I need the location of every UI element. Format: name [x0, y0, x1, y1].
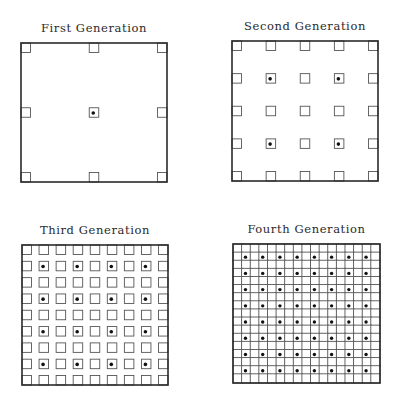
- grid-cell: [300, 74, 310, 84]
- grid-cell: [250, 374, 259, 383]
- grid-cell: [22, 245, 32, 255]
- dot-marker: [278, 288, 281, 291]
- cell-grid: [233, 244, 380, 383]
- grid-cell: [334, 172, 344, 182]
- dot-marker: [110, 330, 114, 334]
- grid-cell: [336, 374, 345, 383]
- grid-cell: [90, 245, 100, 255]
- dot-marker: [295, 255, 298, 258]
- grid-cell: [107, 376, 117, 386]
- grid-cell: [124, 376, 134, 386]
- grid-cell: [159, 376, 169, 386]
- dot-marker: [261, 320, 264, 323]
- grid-cell: [90, 261, 100, 271]
- dot-marker: [313, 337, 316, 340]
- grid-cell: [300, 139, 310, 149]
- grid-cell: [311, 374, 320, 383]
- grid-cell: [371, 374, 380, 383]
- grid-cell: [266, 106, 276, 116]
- grid-cell: [90, 343, 100, 353]
- dot-marker: [91, 111, 95, 115]
- dot-marker: [313, 369, 316, 372]
- dot-marker: [261, 288, 264, 291]
- dot-marker: [330, 320, 333, 323]
- grid-cell: [362, 374, 371, 383]
- grid-cell: [90, 376, 100, 386]
- dot-marker: [244, 369, 247, 372]
- grid-cell: [107, 278, 117, 288]
- dot-marker: [330, 304, 333, 307]
- dot-marker: [244, 320, 247, 323]
- grid-cell: [124, 343, 134, 353]
- dot-marker: [364, 255, 367, 258]
- grid-cell: [21, 108, 31, 118]
- dot-marker: [244, 255, 247, 258]
- grid-cell: [124, 327, 134, 337]
- grid-cell: [293, 374, 302, 383]
- grid-cell: [124, 294, 134, 304]
- grid-cell: [107, 245, 117, 255]
- grid-cell: [232, 106, 242, 116]
- cell-grid: [232, 41, 378, 181]
- dot-marker: [110, 297, 114, 301]
- dot-marker: [313, 304, 316, 307]
- grid-cell: [369, 172, 379, 182]
- grid-cell: [159, 343, 169, 353]
- dot-marker: [295, 304, 298, 307]
- grid-cell: [56, 245, 66, 255]
- dot-marker: [278, 337, 281, 340]
- grid-cell: [22, 343, 32, 353]
- dot-marker: [337, 77, 341, 81]
- grid-cell: [39, 310, 49, 320]
- panel-title: Third Generation: [40, 223, 150, 237]
- dot-marker: [330, 255, 333, 258]
- dot-marker: [75, 265, 79, 269]
- dot-marker: [364, 369, 367, 372]
- panel-first-generation: First Generation: [21, 21, 167, 182]
- dot-marker: [75, 297, 79, 301]
- grid-cell: [300, 172, 310, 182]
- dot-marker: [364, 272, 367, 275]
- grid-cell: [354, 374, 363, 383]
- grid-cell: [369, 74, 379, 84]
- grid-cell: [159, 359, 169, 369]
- grid-cell: [22, 376, 32, 386]
- grid-cell: [232, 139, 242, 149]
- dot-marker: [313, 255, 316, 258]
- dot-marker: [244, 353, 247, 356]
- panel-title: First Generation: [41, 21, 147, 35]
- grid-cell: [267, 374, 276, 383]
- grid-cell: [369, 106, 379, 116]
- grid-cell: [141, 343, 151, 353]
- dot-marker: [110, 265, 114, 269]
- grid-cell: [56, 327, 66, 337]
- dot-marker: [244, 288, 247, 291]
- dot-marker: [364, 337, 367, 340]
- dot-marker: [347, 369, 350, 372]
- grid-cell: [56, 278, 66, 288]
- panel-fourth-generation: Fourth Generation: [233, 222, 380, 383]
- grid-cell: [56, 376, 66, 386]
- grid-cell: [73, 245, 83, 255]
- grid-cell: [56, 294, 66, 304]
- grid-cell: [90, 359, 100, 369]
- grid-cell: [89, 173, 99, 183]
- dot-marker: [364, 353, 367, 356]
- dot-marker: [347, 304, 350, 307]
- grid-cell: [159, 261, 169, 271]
- dot-marker: [261, 353, 264, 356]
- dot-marker: [268, 142, 272, 146]
- dot-marker: [278, 272, 281, 275]
- grid-cell: [21, 43, 31, 53]
- dot-marker: [261, 337, 264, 340]
- dot-marker: [278, 255, 281, 258]
- grid-cell: [56, 261, 66, 271]
- panel-title: Second Generation: [244, 19, 366, 33]
- dot-marker: [330, 337, 333, 340]
- grid-cell: [107, 310, 117, 320]
- dot-marker: [313, 353, 316, 356]
- dot-marker: [364, 320, 367, 323]
- grid-cell: [124, 310, 134, 320]
- grid-cell: [302, 374, 311, 383]
- dot-marker: [261, 272, 264, 275]
